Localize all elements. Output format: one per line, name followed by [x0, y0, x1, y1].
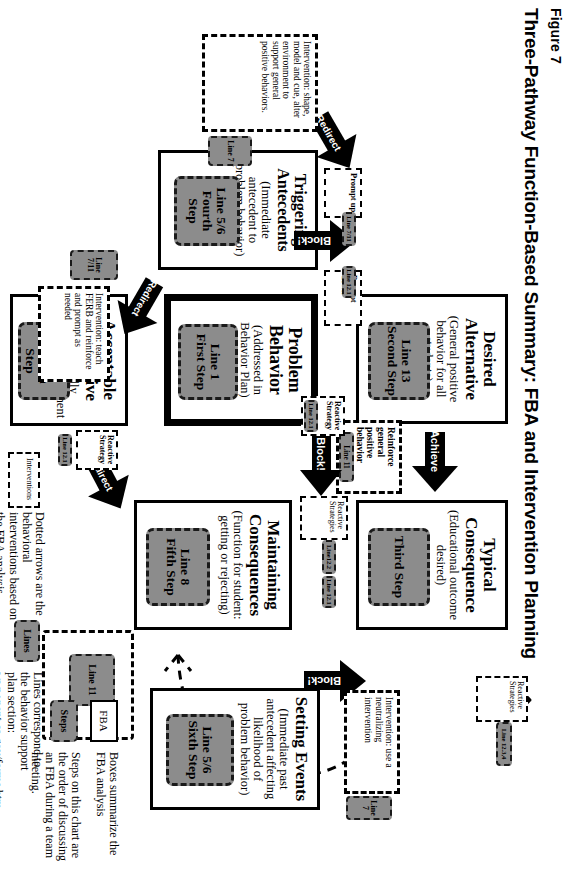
figure-number: Figure 7 [548, 8, 564, 64]
callout-reactive-far-right-text: Reactive Strategy [97, 435, 114, 465]
step-line711-ferb: Line 7/11 [70, 250, 118, 280]
arrow-block-bottom-label: Block! [296, 232, 332, 249]
arrow-block-top-label: Block! [313, 436, 330, 472]
arrow-block-setting-label: Block! [306, 672, 342, 689]
step-line1-first: Line 1 First Step [178, 324, 238, 400]
step-line7-shape: Line 7 [208, 136, 252, 166]
callout-teach-ferb-text: Intervention: teach FERB and reinforce a… [62, 293, 104, 375]
step-line1234: Line 12.3,4 [496, 722, 512, 766]
arrow-block-top: Block! [300, 434, 342, 498]
callout-shape-model: Intervention: shape, model and cue, alte… [202, 34, 318, 132]
setting-events-subtitle: (Immediate past antecedent affecting lik… [238, 691, 291, 807]
typical-consequence-subtitle: (Educational outcome desired) [434, 503, 460, 627]
typical-consequence-title: Typical Consequence [462, 503, 498, 627]
callout-prompt-up-text: Prompt up [349, 173, 358, 213]
callout-teach-ferb: Intervention: teach FERB and reinforce a… [38, 286, 110, 382]
step-third: Third Step [368, 528, 430, 606]
diagram-canvas: Figure 7 Three-Pathway Function-Based Su… [0, 0, 570, 873]
figure-title: Three-Pathway Function-Based Summary: FB… [520, 8, 542, 659]
callout-reinforce-text: Reinforce general positive behavior [355, 427, 396, 487]
legend-desc-lines: Lines correspond to the behavior support… [0, 672, 44, 784]
callout-reactive-top: Reactive Strategies [476, 676, 528, 722]
arrow-achieve-label: Achieve [426, 433, 444, 469]
callout-reactive-right: Reactive Strategies [300, 496, 348, 540]
legend-key-fba: FBA [90, 700, 118, 742]
callout-neutralizing-text: Intervention: use a neutralizing interve… [363, 697, 394, 787]
problem-behavior-title: Problem Behavior [266, 301, 304, 419]
maintaining-consequences-title: Maintaining Consequences [246, 503, 282, 627]
step-line121-right: Line 12.1 [322, 576, 336, 608]
step-line13-second: Line 13 Second Step [368, 322, 430, 400]
step-line8-fifth: Line 8 Fifth Step [146, 528, 210, 606]
legend-desc-fba: Boxes summarize the FBA analysis [94, 752, 120, 858]
legend-key-steps: Steps [50, 700, 78, 742]
step-line56-fourth: Line 5/6 Fourth Step [174, 176, 240, 246]
problem-behavior-subtitle: (Addressed in Behavior Plan) [238, 301, 264, 419]
callout-reactive-far-right: Reactive Strategy [76, 430, 118, 470]
legend-key-interventions: Interventions [24, 454, 33, 504]
diagram-frame: Figure 7 Three-Pathway Function-Based Su… [0, 0, 570, 873]
step-line122: Line12.2 [322, 540, 336, 574]
setting-events-title: Setting Events [292, 691, 310, 807]
legend-key-lines: Lines [14, 620, 40, 662]
callout-shape-model-text: Intervention: shape, model and cue, alte… [260, 41, 312, 125]
step-line711-prompt-up: Line 7/11 [342, 212, 356, 246]
desired-alternative-title: Desired Alternative [462, 297, 498, 421]
arrow-achieve: Achieve [412, 432, 458, 492]
callout-neutralizing: Intervention: use a neutralizing interve… [344, 690, 400, 794]
callout-reactive-left-text: Reactive Strategy [324, 401, 341, 431]
step-line56-sixth: Line 5/6 Sixth Step [166, 714, 234, 786]
step-line121-far-right: Line 12.1 [58, 434, 72, 466]
maintaining-consequences-subtitle: (Function for student: getting or reject… [218, 503, 244, 627]
step-line121-prompt-down: Line 12.1 [342, 266, 356, 298]
step-line7-neutralizing: Line 7 [346, 796, 392, 820]
callout-reactive-right-text: Reactive Strategies [327, 501, 344, 535]
step-line121-left: Line 12.1 [304, 400, 318, 432]
legend-desc-interventions: Dotted arrows are the behavioral interve… [0, 512, 46, 624]
callout-reactive-top-text: Reactive Strategies [507, 681, 524, 717]
